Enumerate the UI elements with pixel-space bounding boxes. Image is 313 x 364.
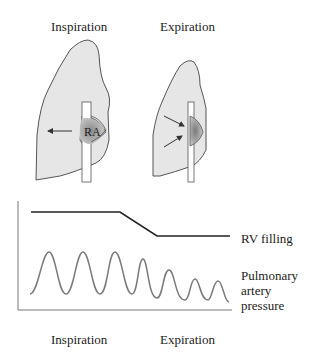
- expiration-lung: [153, 61, 206, 182]
- pa-label-line3: pressure: [241, 298, 298, 313]
- pa-label-line1: Pulmonary: [241, 268, 298, 283]
- inspiration-title: Inspiration: [51, 20, 107, 33]
- pa-label-line2: artery: [241, 283, 298, 298]
- bottom-inspiration-label: Inspiration: [51, 333, 107, 346]
- bottom-expiration-label: Expiration: [160, 333, 215, 346]
- ra-label: RA: [84, 126, 101, 138]
- inspiration-lung: [36, 40, 110, 182]
- rv-filling-line: [31, 212, 230, 236]
- pa-pressure-label: Pulmonary artery pressure: [241, 268, 298, 313]
- expiration-title: Expiration: [160, 20, 215, 33]
- rv-filling-label: RV filling: [241, 232, 293, 245]
- pa-pressure-wave: [30, 252, 229, 302]
- graph-axes: [18, 201, 232, 310]
